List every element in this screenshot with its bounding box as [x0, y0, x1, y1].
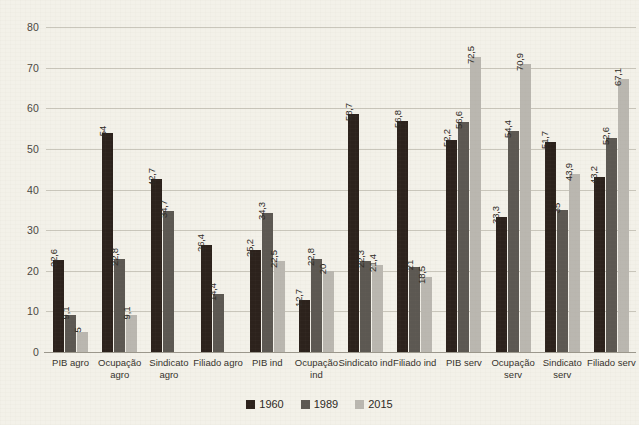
bar-value-label: 34,3 [256, 202, 267, 220]
legend-swatch-icon [246, 400, 255, 409]
bar: 34,7 [163, 211, 174, 352]
bar-value-label: 18,5 [416, 266, 427, 284]
bar-value-label: 34,7 [158, 200, 169, 218]
bar: 9,1 [65, 315, 76, 352]
bar-value-label: 72,5 [465, 46, 476, 64]
bar-value-label: 22,3 [355, 250, 366, 268]
bar-value-label: 54,4 [502, 120, 513, 138]
legend-label: 1960 [259, 398, 283, 410]
bar-group: 33,354,470,9 [489, 27, 538, 352]
bar-value-label: 9,1 [121, 307, 132, 320]
legend-swatch-icon [355, 400, 364, 409]
y-tick-label-0: 0 [33, 346, 39, 358]
bar-group: 58,722,321,4 [341, 27, 390, 352]
bar-value-label: 20 [317, 264, 328, 274]
bar: 25,2 [250, 250, 261, 352]
x-axis-line [44, 352, 636, 353]
bar-value-label: 22,5 [268, 250, 279, 268]
bar-value-label: 52,2 [441, 129, 452, 147]
bar-value-label: 56,8 [392, 110, 403, 128]
bar-group: 25,234,322,5 [243, 27, 292, 352]
bar-value-label: 43,9 [563, 163, 574, 181]
bar: 54,4 [508, 131, 519, 352]
bar-value-label: 35 [551, 203, 562, 213]
bar-value-label: 22,8 [109, 248, 120, 266]
x-axis-category-labels: PIB agroOcupação agroSindicato agroFilia… [46, 357, 636, 393]
bar-value-label: 26,4 [195, 234, 206, 252]
bar-value-label: 67,1 [612, 68, 623, 86]
bar-value-label: 54 [97, 125, 108, 135]
bar: 21,4 [372, 265, 383, 352]
bar-value-label: 5 [72, 327, 83, 332]
bar-value-label: 14,4 [207, 282, 218, 300]
y-axis: 01020304050607080 [0, 27, 39, 352]
bar: 67,1 [618, 79, 629, 352]
bar-value-label: 70,9 [514, 53, 525, 71]
bar: 22,5 [274, 261, 285, 352]
y-tick-label-80: 80 [27, 21, 39, 33]
bar: 14,4 [213, 294, 224, 353]
y-tick-label-40: 40 [27, 184, 39, 196]
bar: 51,7 [545, 142, 556, 352]
bar: 56,6 [458, 122, 469, 352]
bar: 43,2 [594, 177, 605, 353]
bar: 54 [102, 133, 113, 352]
bar: 18,5 [421, 277, 432, 352]
bar: 58,7 [348, 114, 359, 352]
bar-group: 5422,89,1 [95, 27, 144, 352]
bar: 52,2 [446, 140, 457, 352]
bar: 9,1 [126, 315, 137, 352]
bar-value-label: 12,7 [293, 289, 304, 307]
bar: 35 [557, 210, 568, 352]
legend-swatch-icon [301, 400, 310, 409]
bar-value-label: 52,6 [600, 127, 611, 145]
bar: 70,9 [520, 64, 531, 352]
bar-value-label: 58,7 [343, 102, 354, 120]
bar-value-label: 22,8 [305, 248, 316, 266]
bar-value-label: 51,7 [539, 131, 550, 149]
bar: 72,5 [470, 57, 481, 352]
bar-value-label: 33,3 [490, 206, 501, 224]
bar-group: 42,734,7 [144, 27, 193, 352]
x-axis-tick-label: Filiado serv [583, 357, 639, 369]
legend-item: 1989 [301, 398, 338, 410]
bar: 34,3 [262, 213, 273, 352]
bar-group: 22,69,15 [46, 27, 95, 352]
bar-value-label: 21,4 [367, 254, 378, 272]
bar-value-label: 9,1 [60, 307, 71, 320]
bar: 52,6 [606, 138, 617, 352]
legend-item: 1960 [246, 398, 283, 410]
y-tick-label-70: 70 [27, 62, 39, 74]
bar: 43,9 [569, 174, 580, 352]
legend-label: 1989 [314, 398, 338, 410]
bar: 5 [77, 332, 88, 352]
bar-group: 52,256,672,5 [439, 27, 488, 352]
bar-value-label: 25,2 [244, 239, 255, 257]
y-tick-label-30: 30 [27, 224, 39, 236]
bar: 20 [323, 271, 334, 352]
legend-item: 2015 [355, 398, 392, 410]
chart-legend: 196019892015 [0, 398, 639, 410]
bar: 22,3 [360, 261, 371, 352]
bar: 12,7 [299, 300, 310, 352]
legend-label: 2015 [368, 398, 392, 410]
bar-value-label: 22,6 [48, 249, 59, 267]
bar: 33,3 [496, 217, 507, 352]
bar-value-label: 21 [404, 260, 415, 270]
bar-chart: 01020304050607080 22,69,155422,89,142,73… [0, 0, 639, 425]
bar-group: 56,82118,5 [390, 27, 439, 352]
y-tick-label-10: 10 [27, 305, 39, 317]
bar: 56,8 [397, 121, 408, 352]
plot-area: 22,69,155422,89,142,734,726,414,425,234,… [46, 27, 636, 352]
bar-group: 26,414,4 [194, 27, 243, 352]
bar-group: 12,722,820 [292, 27, 341, 352]
y-tick-label-60: 60 [27, 102, 39, 114]
y-tick-label-50: 50 [27, 143, 39, 155]
bar-group: 51,73543,9 [538, 27, 587, 352]
bar-value-label: 56,6 [453, 111, 464, 129]
bar-value-label: 42,7 [146, 167, 157, 185]
bar-value-label: 43,2 [588, 165, 599, 183]
bar-group: 43,252,667,1 [587, 27, 636, 352]
y-tick-label-20: 20 [27, 265, 39, 277]
